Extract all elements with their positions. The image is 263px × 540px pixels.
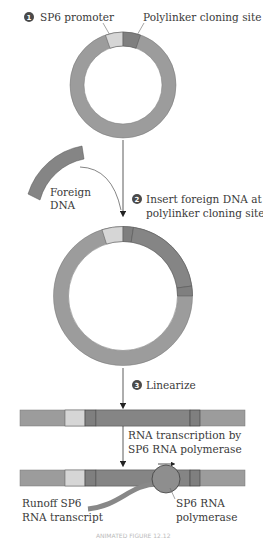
runoff-label-1: Runoff SP6 xyxy=(22,497,82,509)
polylinker-right-segment xyxy=(190,470,200,486)
sp6-promoter-segment xyxy=(65,470,85,486)
sp6-rna-polymerase xyxy=(152,465,180,493)
plasmid-vector xyxy=(70,32,176,138)
sp6-promoter-label: SP6 promoter xyxy=(40,11,115,23)
rna-transcript xyxy=(88,484,158,509)
polylinker-left-segment xyxy=(85,470,96,486)
svg-text:3: 3 xyxy=(135,382,140,390)
polylinker-right-segment xyxy=(190,410,200,426)
recombinant-plasmid xyxy=(54,226,193,365)
polylinker-label: Polylinker cloning site xyxy=(143,11,261,23)
sp6-promoter-segment xyxy=(65,410,85,426)
step-3-badge: 3 xyxy=(132,380,142,390)
step-2-label-2: polylinker cloning site xyxy=(146,207,263,219)
foreign-dna-label-2: DNA xyxy=(50,199,76,211)
polymerase-label-1: SP6 RNA xyxy=(176,497,225,509)
step-1-badge: 1 xyxy=(24,12,34,22)
step-2-badge: 2 xyxy=(132,194,142,204)
polylinker-left-segment xyxy=(85,410,96,426)
step-2-label-1: Insert foreign DNA at xyxy=(146,193,262,205)
transcription-label-1: RNA transcription by xyxy=(128,429,241,441)
figure-caption: ANIMATED FIGURE 12.12 xyxy=(96,532,171,539)
svg-text:1: 1 xyxy=(27,14,32,22)
step-3-label: Linearize xyxy=(146,379,196,391)
sp6-cloning-diagram: 1 SP6 promoter Polylinker cloning site F… xyxy=(0,0,263,540)
polylinker-right-segment xyxy=(177,286,193,296)
runoff-label-2: RNA transcript xyxy=(22,511,104,523)
transcribing-dna xyxy=(20,470,245,486)
svg-text:2: 2 xyxy=(135,196,140,204)
polymerase-label-2: polymerase xyxy=(176,511,237,523)
linearized-dna xyxy=(20,410,245,426)
transcription-label-2: SP6 RNA polymerase xyxy=(128,443,242,455)
foreign-dna-label-1: Foreign xyxy=(50,186,91,198)
foreign-dna-insert xyxy=(96,410,190,426)
foreign-dna-insert xyxy=(131,227,192,288)
